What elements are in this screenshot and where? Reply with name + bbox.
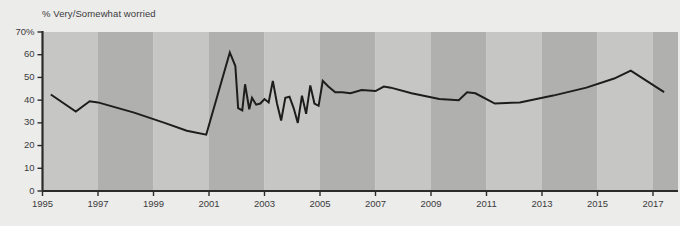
- x-tick-label: 2001: [198, 198, 219, 209]
- line-chart: 1995199719992001200320052007200920112013…: [0, 0, 680, 226]
- background-band: [98, 32, 154, 191]
- x-tick-label: 2011: [476, 198, 496, 209]
- x-tick-label: 2003: [254, 198, 275, 209]
- y-tick-label: 0: [29, 185, 34, 196]
- x-tick-label: 2009: [420, 198, 441, 209]
- x-axis-labels: 1995199719992001200320052007200920112013…: [32, 198, 664, 209]
- background-band: [598, 32, 654, 191]
- y-tick-label: 30: [24, 116, 35, 127]
- background-band: [376, 32, 432, 191]
- x-tick-label: 1997: [87, 198, 108, 209]
- background-band: [320, 32, 376, 191]
- x-tick-label: 1995: [32, 198, 53, 209]
- background-band: [43, 32, 99, 191]
- background-bands: [43, 32, 679, 191]
- x-tick-label: 2007: [365, 198, 386, 209]
- x-tick-label: 1999: [143, 198, 164, 209]
- y-tick-label: 20: [24, 139, 35, 150]
- background-band: [487, 32, 543, 191]
- background-band: [209, 32, 265, 191]
- y-tick-label: 50: [24, 71, 35, 82]
- background-band: [431, 32, 487, 191]
- background-band: [154, 32, 210, 191]
- x-tick-label: 2015: [587, 198, 608, 209]
- x-tick-label: 2005: [309, 198, 330, 209]
- background-band: [265, 32, 321, 191]
- x-tick-label: 2017: [642, 198, 663, 209]
- background-band: [653, 32, 678, 191]
- y-tick-label: 60: [24, 48, 35, 59]
- y-tick-label: 70%: [15, 26, 35, 37]
- y-tick-label: 10: [24, 162, 35, 173]
- chart-container: % Very/Somewhat worried 1995199719992001…: [0, 0, 680, 226]
- y-tick-label: 40: [24, 94, 35, 105]
- y-axis-labels: 010203040506070%: [15, 26, 35, 196]
- background-band: [542, 32, 598, 191]
- x-tick-label: 2013: [531, 198, 552, 209]
